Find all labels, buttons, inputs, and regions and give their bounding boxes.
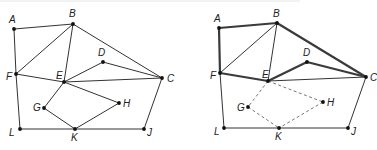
left-vertex-label-e: E xyxy=(56,70,63,81)
left-vertex-label-a: A xyxy=(8,14,16,25)
left-vertex-label-g: G xyxy=(33,102,41,113)
left-edge-e-h xyxy=(64,82,119,103)
left-edge-e-g xyxy=(44,82,64,108)
left-edge-a-b xyxy=(14,24,73,29)
left-vertex-l xyxy=(18,127,22,131)
left-vertex-label-c: C xyxy=(167,73,175,84)
left-edge-f-l xyxy=(16,74,20,129)
right-vertex-label-h: H xyxy=(327,97,335,108)
right-vertex-a xyxy=(217,26,221,30)
left-vertex-j xyxy=(142,127,146,131)
left-graph: ABCDEFGHJKL xyxy=(6,8,175,143)
right-vertex-c xyxy=(364,75,368,79)
right-edge-a-b xyxy=(219,23,277,28)
left-edge-b-f xyxy=(16,24,73,74)
left-vertex-a xyxy=(12,27,16,31)
left-edge-a-f xyxy=(14,29,16,74)
right-vertex-g xyxy=(246,105,250,109)
right-edge-e-h xyxy=(268,81,323,102)
left-edge-d-c xyxy=(103,62,162,78)
left-edge-c-j xyxy=(144,78,162,129)
left-vertex-label-f: F xyxy=(6,71,13,82)
left-graph-labels: ABCDEFGHJKL xyxy=(6,8,175,143)
right-vertex-label-a: A xyxy=(213,13,221,24)
right-vertex-b xyxy=(275,21,279,25)
left-vertex-label-l: L xyxy=(9,127,15,138)
left-vertex-label-b: B xyxy=(69,8,76,19)
graph-figure: ABCDEFGHJKL ABCDEFGHJKL xyxy=(0,0,377,150)
right-edge-f-l xyxy=(220,73,224,128)
right-vertex-k xyxy=(277,126,281,130)
left-graph-edges xyxy=(14,24,162,129)
left-vertex-b xyxy=(71,22,75,26)
right-edge-a-f xyxy=(219,28,220,73)
left-vertex-label-h: H xyxy=(123,98,131,109)
right-edge-c-j xyxy=(348,77,366,128)
right-vertex-label-k: K xyxy=(275,131,283,142)
right-edge-e-c xyxy=(268,77,366,81)
left-edge-b-e xyxy=(64,24,73,82)
right-edge-g-k xyxy=(248,107,279,128)
right-vertex-label-g: G xyxy=(237,102,245,113)
right-vertex-label-b: B xyxy=(273,8,280,19)
left-vertex-d xyxy=(101,60,105,64)
right-vertex-label-c: C xyxy=(370,72,377,83)
left-vertex-g xyxy=(42,106,46,110)
right-vertex-label-f: F xyxy=(210,70,217,81)
right-edge-h-k xyxy=(279,102,323,128)
right-edge-b-f xyxy=(220,23,277,73)
left-vertex-h xyxy=(117,101,121,105)
left-edge-h-k xyxy=(75,103,119,129)
left-edge-b-c xyxy=(73,24,162,78)
right-edge-e-d xyxy=(268,62,307,81)
left-vertex-label-d: D xyxy=(98,47,105,58)
left-vertex-label-j: J xyxy=(146,127,153,138)
right-vertex-d xyxy=(305,60,309,64)
right-vertex-j xyxy=(346,126,350,130)
left-edge-e-c xyxy=(64,78,162,82)
right-edge-d-c xyxy=(307,62,366,77)
left-graph-nodes xyxy=(12,22,164,131)
right-edge-f-e xyxy=(220,73,268,81)
left-edge-e-d xyxy=(64,62,103,82)
right-edge-b-e xyxy=(268,23,277,81)
left-vertex-c xyxy=(160,76,164,80)
left-edge-g-k xyxy=(44,108,75,129)
left-vertex-k xyxy=(73,127,77,131)
right-edge-e-g xyxy=(248,81,268,107)
right-graph: ABCDEFGHJKL xyxy=(210,8,377,142)
right-vertex-h xyxy=(321,100,325,104)
right-vertex-label-l: L xyxy=(214,126,220,137)
left-vertex-f xyxy=(14,72,18,76)
right-vertex-l xyxy=(222,126,226,130)
right-vertex-f xyxy=(218,71,222,75)
right-vertex-label-e: E xyxy=(262,69,269,80)
right-vertex-label-d: D xyxy=(303,47,310,58)
left-vertex-label-k: K xyxy=(71,132,79,143)
right-vertex-label-j: J xyxy=(350,126,357,137)
